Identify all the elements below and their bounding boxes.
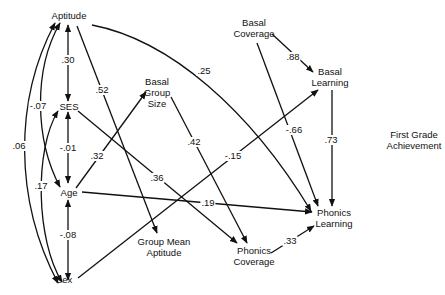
node-label-line: First Grade [387, 129, 442, 140]
node-label-line: Coverage [233, 256, 274, 267]
node-aptitude: Aptitude [52, 10, 87, 21]
node-label-line: Basal [233, 17, 274, 28]
node-phonics-coverage: Phonics Coverage [233, 245, 274, 267]
node-label-line: Phonics [316, 207, 353, 218]
coef-ses-sex: .17 [33, 181, 48, 191]
node-group-mean-aptitude: Group Mean Aptitude [138, 236, 191, 258]
coef-aptitude-age: -.07 [29, 101, 47, 111]
node-label-line: Group Mean [138, 236, 191, 247]
edge-aptitude-gma [77, 26, 157, 233]
coef-age-bgs: .32 [89, 151, 104, 161]
outcome-label-first-grade-achievement: First Grade Achievement [387, 129, 442, 151]
coef-bl-pl: .73 [323, 135, 338, 145]
edge-ses-sex [41, 111, 62, 282]
edge-aptitude-sex [25, 23, 58, 283]
node-label-line: Aptitude [138, 247, 191, 258]
coef-ses-pc: .36 [149, 173, 164, 183]
node-age: Age [61, 187, 78, 198]
edge-aptitude-pl [92, 25, 311, 211]
node-basal-learning: Basal Learning [312, 66, 349, 88]
coef-bc-bl: .88 [285, 52, 300, 62]
node-label-line: Coverage [233, 28, 274, 39]
node-label-line: Achievement [387, 140, 442, 151]
node-label-line: Group [144, 87, 170, 98]
coef-pc-pl: .33 [282, 236, 297, 246]
node-label-line: Basal [312, 66, 349, 77]
edge-sex-bl [78, 90, 318, 278]
path-diagram: Aptitude SES Age Sex Basal Group Size Gr… [0, 0, 445, 295]
coef-bc-pl: -.66 [285, 125, 303, 135]
coef-bgs-pc: .42 [186, 137, 201, 147]
edge-bgs-pc [171, 97, 247, 243]
node-label: Age [61, 187, 78, 198]
node-basal-coverage: Basal Coverage [233, 17, 274, 39]
node-label-line: Phonics [233, 245, 274, 256]
coef-age-pl: .19 [200, 198, 215, 208]
coef-age-sex: -.08 [59, 230, 77, 240]
node-phonics-learning: Phonics Learning [316, 207, 353, 229]
coef-ses-age: -.01 [59, 143, 77, 153]
coef-aptitude-pl: .25 [196, 66, 211, 76]
coef-sex-bl: -.15 [224, 151, 242, 161]
node-label: Sex [56, 274, 72, 285]
node-label: Aptitude [52, 10, 87, 21]
node-sex: Sex [56, 274, 72, 285]
node-label-line: Learning [316, 218, 353, 229]
node-basal-group-size: Basal Group Size [144, 76, 170, 109]
node-ses: SES [59, 101, 78, 112]
node-label-line: Learning [312, 77, 349, 88]
node-label-line: Basal [144, 76, 170, 87]
edge-age-bgs [76, 92, 146, 188]
coef-aptitude-sex: .06 [11, 141, 26, 151]
node-label-line: Size [144, 98, 170, 109]
coef-aptitude-ses: .30 [60, 55, 75, 65]
node-label: SES [59, 101, 78, 112]
coef-aptitude-gma: .52 [94, 85, 109, 95]
